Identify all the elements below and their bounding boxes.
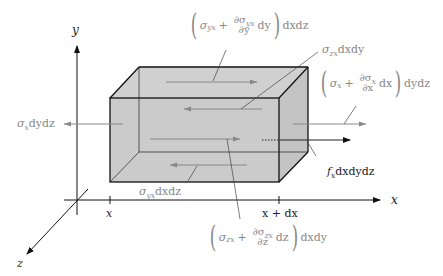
label-body-force: fxdxdydz bbox=[327, 166, 375, 177]
x-axis-label: x bbox=[391, 194, 398, 206]
label-sigma-x-left: σxdydz bbox=[17, 118, 55, 129]
z-axis-label: z bbox=[17, 258, 23, 269]
y-axis-label: y bbox=[72, 24, 79, 36]
tick-x-plus-dx-label: x + dx bbox=[262, 208, 298, 219]
label-sigma-yx-top: ( σyx + ∂σyx∂y dy ) dxdz bbox=[188, 10, 308, 40]
label-sigma-yx-bottom: σyxdxdz bbox=[139, 186, 181, 197]
label-sigma-zx-back: σzxdxdy bbox=[322, 44, 364, 55]
tick-x-label: x bbox=[106, 208, 112, 219]
label-sigma-zx-front: ( σzx + ∂σzx∂z dz ) dxdy bbox=[207, 222, 327, 252]
label-sigma-x-right: ( σx + ∂σx∂x dx ) dydz bbox=[318, 68, 430, 98]
z-axis bbox=[27, 189, 88, 254]
leader-sigma-x-right bbox=[344, 106, 356, 124]
